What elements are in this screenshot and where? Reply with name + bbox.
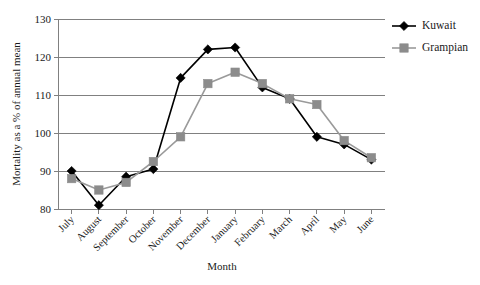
data-point-grampian-february [258,79,266,87]
data-point-grampian-october [149,157,157,165]
data-point-grampian-november [176,133,184,141]
data-point-grampian-april [313,100,321,108]
data-point-grampian-january [231,68,239,76]
data-point-kuwait-january [231,43,240,52]
legend: KuwaitGrampian [392,19,468,54]
y-tick-label-100: 100 [35,127,52,139]
series-line-kuwait [72,48,372,206]
y-tick-label-80: 80 [40,203,52,215]
line-chart: 8090100110120130 JulyAugustSeptemberOcto… [0,0,480,285]
y-tick-label-120: 120 [35,51,52,63]
data-point-grampian-march [285,95,293,103]
y-tick-marks-group [54,19,58,209]
data-point-grampian-june [367,154,375,162]
x-tick-label-april: April [298,214,322,238]
legend-label-kuwait: Kuwait [422,19,457,31]
x-tick-marks-group [72,209,372,214]
x-tick-labels-group: JulyAugustSeptemberOctoberNovemberDecemb… [56,213,376,253]
data-point-grampian-may [340,136,348,144]
y-tick-labels-group: 8090100110120130 [35,13,52,215]
x-tick-label-february: February [232,213,267,248]
series-markers-group [67,43,376,210]
legend-marker-grampian [400,44,408,52]
y-tick-label-130: 130 [35,13,52,25]
y-tick-label-110: 110 [35,89,52,101]
x-tick-label-march: March [267,213,295,241]
y-tick-label-90: 90 [40,165,52,177]
gridlines-group [58,19,385,209]
x-tick-label-may: May [327,213,349,235]
data-point-grampian-december [204,79,212,87]
legend-marker-kuwait [399,21,408,30]
y-axis-title: Mortality as a % of annual mean [10,42,22,186]
x-axis-title: Month [207,260,237,272]
legend-label-grampian: Grampian [422,41,468,54]
series-line-grampian [72,72,372,190]
x-tick-label-july: July [56,213,77,234]
data-point-grampian-august [95,186,103,194]
series-lines-group [72,48,372,206]
data-point-grampian-july [67,174,75,182]
x-tick-label-june: June [354,213,376,235]
chart-container: 8090100110120130 JulyAugustSeptemberOcto… [0,0,480,285]
data-point-grampian-september [122,178,130,186]
